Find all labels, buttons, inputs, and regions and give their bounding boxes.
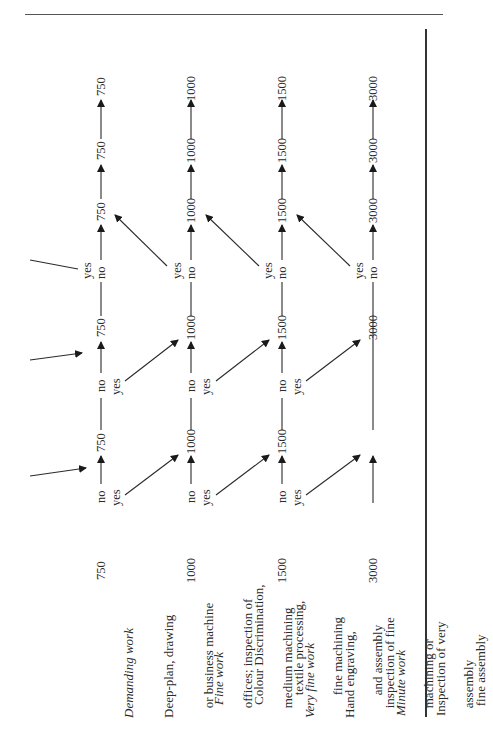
branch-yes-1500-top: yes bbox=[262, 262, 275, 279]
chain-node-1500-4: 1500 bbox=[276, 138, 289, 163]
chain-node-1500-2: 1500 bbox=[276, 315, 289, 340]
branch-yes-1500-bottom: yes bbox=[291, 489, 304, 506]
branch-no-1500-top: no bbox=[276, 267, 289, 280]
branch-no-1500-mid: no bbox=[276, 380, 289, 393]
row-title: Very fine work bbox=[303, 617, 316, 718]
chain-node-3000-5: 3000 bbox=[367, 76, 380, 101]
branch-no-3000-top: no bbox=[367, 267, 380, 280]
branch-yes-1000-mid: yes bbox=[200, 378, 213, 395]
branch-no-1000-bottom: no bbox=[185, 491, 198, 504]
row-level-1000: 1000 bbox=[185, 558, 198, 583]
branch-no-750-bottom: no bbox=[95, 491, 108, 504]
chain-node-750-4: 750 bbox=[95, 141, 108, 160]
branch-yes-750-bottom: yes bbox=[110, 489, 123, 506]
chain-node-1500-1: 1500 bbox=[276, 429, 289, 454]
row-title: Fine work bbox=[212, 584, 225, 705]
chain-node-1500-3: 1500 bbox=[276, 198, 289, 223]
chain-node-1000-4: 1000 bbox=[185, 138, 198, 163]
branch-yes-1000-top: yes bbox=[171, 262, 184, 279]
row-level-750: 750 bbox=[95, 561, 108, 580]
chain-node-750-5: 750 bbox=[95, 77, 108, 96]
branch-yes-1500-mid: yes bbox=[291, 378, 304, 395]
branch-yes-1000-bottom: yes bbox=[200, 489, 213, 506]
chain-node-3000-3: 3000 bbox=[367, 198, 380, 223]
row-level-3000: 3000 bbox=[367, 558, 380, 583]
row-level-1500: 1500 bbox=[276, 558, 289, 583]
row-title: Demanding work bbox=[122, 599, 135, 718]
chain-node-3000-4: 3000 bbox=[367, 138, 380, 163]
chain-node-1000-5: 1000 bbox=[185, 76, 198, 101]
chain-node-750-2: 750 bbox=[95, 318, 108, 337]
entry-arrow-1 bbox=[30, 468, 86, 476]
chain-node-750-1: 750 bbox=[95, 433, 108, 452]
branch-yes-3000-top: yes bbox=[353, 262, 366, 279]
branch-no-750-top: no bbox=[95, 267, 108, 280]
row-title: Minute work bbox=[394, 621, 407, 716]
branch-yes-750-top: yes bbox=[81, 262, 94, 279]
branch-no-1500-bottom: no bbox=[276, 491, 289, 504]
branch-no-750-mid: no bbox=[95, 380, 108, 393]
chain-node-1000-2: 1000 bbox=[185, 315, 198, 340]
row-description-3000: Minute work Inspection of very fine asse… bbox=[368, 621, 493, 716]
branch-yes-750-mid: yes bbox=[110, 378, 123, 395]
chain-node-1000-3: 1000 bbox=[185, 198, 198, 223]
chain-node-1500-5: 1500 bbox=[276, 76, 289, 101]
chain-node-3000-2: 3000 bbox=[367, 315, 380, 340]
branch-no-1000-mid: no bbox=[185, 380, 198, 393]
chain-node-1000-1: 1000 bbox=[185, 429, 198, 454]
entry-line-3 bbox=[30, 260, 78, 269]
chain-node-750-3: 750 bbox=[95, 202, 108, 221]
branch-no-1000-top: no bbox=[185, 267, 198, 280]
entry-arrow-2 bbox=[30, 353, 82, 360]
